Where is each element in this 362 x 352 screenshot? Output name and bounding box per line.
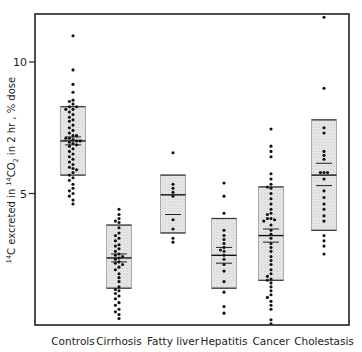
data-point: [117, 213, 120, 216]
data-point: [322, 154, 325, 157]
data-point: [266, 185, 269, 188]
data-point: [68, 179, 71, 182]
data-point: [117, 276, 120, 279]
data-point: [68, 195, 71, 198]
data-point: [269, 246, 272, 249]
data-point: [71, 129, 74, 132]
data-point: [117, 301, 120, 304]
data-point: [79, 139, 82, 142]
data-point: [171, 151, 174, 154]
data-point: [71, 163, 74, 166]
data-point: [322, 234, 325, 237]
data-point: [269, 263, 272, 266]
data-point: [171, 227, 174, 230]
data-point: [269, 293, 272, 296]
data-point: [68, 137, 71, 140]
data-point: [117, 289, 120, 292]
data-point: [117, 317, 120, 320]
data-point: [222, 254, 225, 257]
data-point: [269, 281, 272, 284]
data-point: [68, 100, 71, 103]
data-point: [322, 131, 325, 134]
data-point: [322, 208, 325, 211]
data-point: [68, 131, 71, 134]
data-point: [269, 259, 272, 262]
data-point: [171, 191, 174, 194]
y-axis-label: 14C excreted in 14CO2 in 2 hr , % dose: [5, 77, 20, 263]
data-point: [71, 171, 74, 174]
data-point: [262, 220, 265, 223]
data-point: [117, 285, 120, 288]
x-category-label: Cirrhosis: [96, 335, 141, 347]
data-point: [222, 238, 225, 241]
data-point: [171, 183, 174, 186]
data-point: [269, 217, 272, 220]
data-point: [117, 256, 120, 259]
data-point: [68, 110, 71, 113]
data-point: [68, 150, 71, 153]
data-point: [114, 292, 117, 295]
data-point: [269, 212, 272, 215]
data-point: [117, 252, 120, 255]
data-point: [222, 229, 225, 232]
data-point: [322, 202, 325, 205]
data-point: [171, 187, 174, 190]
data-point: [71, 124, 74, 127]
data-point: [71, 134, 74, 137]
data-point: [71, 83, 74, 86]
x-category-label: Controls: [51, 335, 94, 347]
data-point: [219, 248, 222, 251]
data-point: [266, 296, 269, 299]
data-point: [121, 263, 124, 266]
data-point: [222, 258, 225, 261]
data-point: [114, 250, 117, 253]
data-point: [269, 285, 272, 288]
data-point: [117, 208, 120, 211]
data-point: [269, 202, 272, 205]
data-point: [117, 237, 120, 240]
data-point: [322, 239, 325, 242]
data-point: [117, 295, 120, 298]
data-point: [117, 313, 120, 316]
data-point: [222, 270, 225, 273]
data-point: [222, 291, 225, 294]
data-point: [269, 128, 272, 131]
data-point: [64, 137, 67, 140]
data-points: [64, 16, 329, 325]
data-point: [269, 183, 272, 186]
data-point: [222, 280, 225, 283]
data-point: [322, 214, 325, 217]
group-cholestasis: [312, 120, 337, 230]
data-point: [171, 195, 174, 198]
dot-plot-chart: 510 ControlsCirrhosisFatty liverHepatiti…: [0, 0, 362, 352]
data-point: [117, 260, 120, 263]
data-point: [71, 158, 74, 161]
x-category-label: Cancer: [253, 335, 291, 347]
data-point: [71, 142, 74, 145]
data-point: [114, 220, 117, 223]
data-point: [269, 177, 272, 180]
data-point: [71, 183, 74, 186]
data-point: [269, 272, 272, 275]
data-point: [117, 221, 120, 224]
data-point: [117, 243, 120, 246]
x-axis: ControlsCirrhosisFatty liverHepatitisCan…: [51, 335, 354, 347]
data-point: [114, 262, 117, 265]
data-point: [64, 108, 67, 111]
data-point: [322, 87, 325, 90]
x-category-label: Cholestasis: [294, 335, 354, 347]
data-point: [269, 250, 272, 253]
data-point: [68, 141, 71, 144]
data-point: [114, 245, 117, 248]
data-point: [71, 167, 74, 170]
data-point: [269, 318, 272, 321]
data-point: [75, 143, 78, 146]
data-point: [114, 288, 117, 291]
data-point: [71, 34, 74, 37]
data-point: [222, 305, 225, 308]
data-point: [322, 220, 325, 223]
data-point: [114, 258, 117, 261]
data-point: [71, 103, 74, 106]
data-point: [269, 268, 272, 271]
data-point: [269, 233, 272, 236]
